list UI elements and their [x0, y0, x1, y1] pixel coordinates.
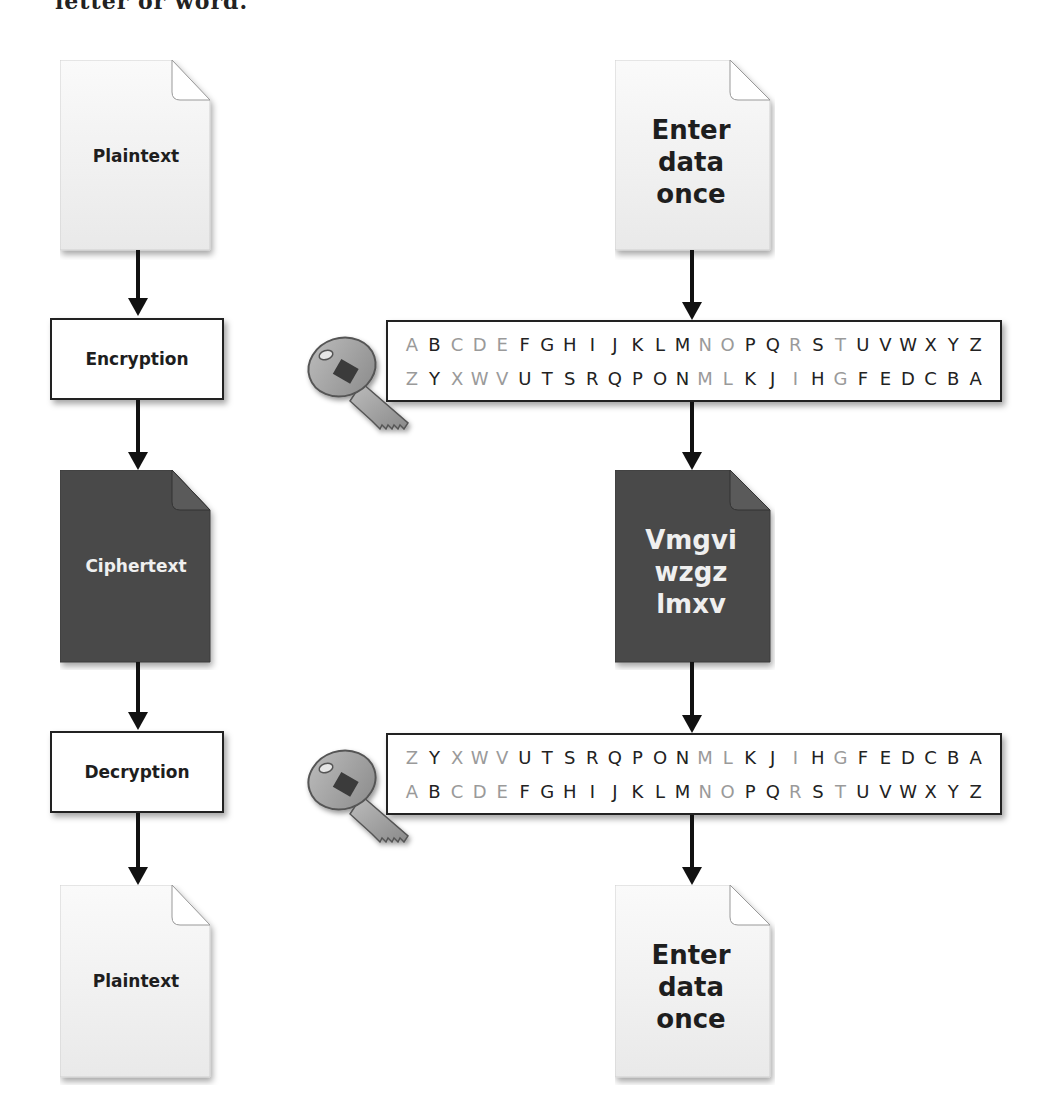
- cipher-letter: L: [718, 747, 738, 768]
- decryption-step-box: Decryption: [50, 731, 224, 813]
- cipher-row-cipher: ZYXWVUTSRQPONMLKJIHGFEDCBA: [402, 368, 986, 389]
- document-label: Vmgvi wzgz lmxv: [615, 524, 767, 620]
- cipher-letter: Q: [605, 368, 625, 389]
- document-line: data: [615, 146, 767, 178]
- cipher-letter: H: [560, 334, 580, 355]
- cipher-letter: O: [718, 781, 738, 802]
- cipher-letter: U: [853, 781, 873, 802]
- arrow-down-icon: [128, 662, 148, 730]
- cipher-letter: M: [695, 747, 715, 768]
- document-line: Enter: [615, 114, 767, 146]
- cipher-letter: H: [808, 368, 828, 389]
- cipher-letter: E: [492, 781, 512, 802]
- cipher-letter: I: [785, 747, 805, 768]
- document-label: Plaintext: [60, 971, 212, 991]
- cipher-letter: R: [582, 368, 602, 389]
- cipher-letter: Z: [966, 334, 986, 355]
- cipher-letter: Y: [943, 334, 963, 355]
- cipher-letter: C: [447, 781, 467, 802]
- cipher-letter: J: [605, 781, 625, 802]
- cipher-letter: E: [492, 334, 512, 355]
- cipher-letter: S: [808, 781, 828, 802]
- cipher-letter: F: [515, 334, 535, 355]
- cipher-letter: Q: [605, 747, 625, 768]
- cipher-letter: F: [853, 747, 873, 768]
- cipher-row-plain: ABCDEFGHIJKLMNOPQRSTUVWXYZ: [402, 334, 986, 355]
- cipher-letter: D: [898, 747, 918, 768]
- cipher-letter: X: [921, 781, 941, 802]
- arrow-down-icon: [682, 662, 702, 733]
- cipher-letter: T: [537, 368, 557, 389]
- output-document-bottom: Enter data once: [615, 885, 767, 1077]
- document-label: Enter data once: [615, 939, 767, 1035]
- arrow-down-icon: [682, 250, 702, 320]
- input-document-top: Enter data once: [615, 60, 767, 252]
- cipher-letter: M: [695, 368, 715, 389]
- cipher-letter: D: [470, 334, 490, 355]
- arrow-down-icon: [128, 250, 148, 316]
- document-label: Enter data once: [615, 114, 767, 210]
- cipher-letter: G: [830, 747, 850, 768]
- cipher-row-plain: ABCDEFGHIJKLMNOPQRSTUVWXYZ: [402, 781, 986, 802]
- cipher-letter: P: [627, 747, 647, 768]
- cipher-letter: N: [673, 368, 693, 389]
- cipher-letter: B: [943, 747, 963, 768]
- cipher-letter: A: [966, 368, 986, 389]
- cipher-letter: K: [740, 368, 760, 389]
- ciphertext-document: Ciphertext: [60, 470, 212, 662]
- cipher-letter: Y: [943, 781, 963, 802]
- cipher-letter: U: [853, 334, 873, 355]
- cipher-letter: W: [470, 747, 490, 768]
- ciphertext-document-example: Vmgvi wzgz lmxv: [615, 470, 767, 662]
- cipher-letter: Q: [763, 781, 783, 802]
- cipher-letter: V: [492, 747, 512, 768]
- cipher-letter: Q: [763, 334, 783, 355]
- cipher-letter: S: [808, 334, 828, 355]
- cipher-letter: P: [627, 368, 647, 389]
- cipher-letter: V: [875, 334, 895, 355]
- cipher-letter: L: [718, 368, 738, 389]
- decryption-label: Decryption: [84, 762, 189, 782]
- encryption-cipher-table: ABCDEFGHIJKLMNOPQRSTUVWXYZ ZYXWVUTSRQPON…: [386, 320, 1002, 402]
- document-label: Ciphertext: [60, 556, 212, 576]
- cipher-letter: X: [921, 334, 941, 355]
- plaintext-document-bottom: Plaintext: [60, 885, 212, 1077]
- document-line: once: [615, 1003, 767, 1035]
- cipher-letter: R: [785, 781, 805, 802]
- cipher-letter: E: [875, 747, 895, 768]
- cipher-letter: B: [943, 368, 963, 389]
- cipher-letter: F: [853, 368, 873, 389]
- cipher-letter: J: [763, 368, 783, 389]
- cipher-letter: H: [560, 781, 580, 802]
- cipher-letter: P: [740, 781, 760, 802]
- cipher-letter: N: [673, 747, 693, 768]
- cipher-letter: E: [875, 368, 895, 389]
- cipher-letter: O: [718, 334, 738, 355]
- cipher-letter: U: [515, 747, 535, 768]
- cipher-letter: V: [875, 781, 895, 802]
- cipher-letter: G: [830, 368, 850, 389]
- cipher-letter: W: [898, 334, 918, 355]
- cipher-letter: N: [695, 334, 715, 355]
- plaintext-document-top: Plaintext: [60, 60, 212, 252]
- encryption-label: Encryption: [85, 349, 188, 369]
- cipher-letter: Z: [966, 781, 986, 802]
- cipher-letter: I: [785, 368, 805, 389]
- cipher-letter: F: [515, 781, 535, 802]
- document-line: data: [615, 971, 767, 1003]
- arrow-down-icon: [682, 815, 702, 885]
- key-icon: [300, 325, 440, 455]
- document-line: Enter: [615, 939, 767, 971]
- cipher-letter: P: [740, 334, 760, 355]
- cipher-letter: L: [650, 781, 670, 802]
- cipher-letter: U: [515, 368, 535, 389]
- encryption-step-box: Encryption: [50, 318, 224, 400]
- cipher-letter: J: [605, 334, 625, 355]
- cipher-letter: R: [582, 747, 602, 768]
- document-line: lmxv: [615, 588, 767, 620]
- cipher-letter: D: [898, 368, 918, 389]
- cipher-letter: D: [470, 781, 490, 802]
- cipher-letter: W: [898, 781, 918, 802]
- arrow-down-icon: [128, 813, 148, 885]
- cipher-letter: K: [627, 334, 647, 355]
